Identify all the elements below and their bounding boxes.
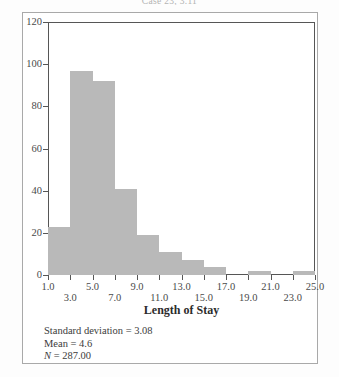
figure-top-caption: Case 23, 3.11 xyxy=(0,0,339,5)
y-axis-tick-label: 40 xyxy=(32,186,43,197)
x-axis-title: Length of Stay xyxy=(48,303,315,318)
y-axis-tick-label: 80 xyxy=(32,101,43,112)
histogram-bar xyxy=(48,227,70,275)
x-axis-tick-mark xyxy=(248,275,249,280)
x-axis-tick-label: 3.0 xyxy=(64,293,77,304)
histogram-bar xyxy=(204,267,226,275)
y-axis-tick-label: 120 xyxy=(26,17,42,28)
histogram-bars xyxy=(48,22,315,275)
x-axis-tick-mark xyxy=(271,275,272,280)
x-axis-tick-mark xyxy=(70,275,71,280)
x-axis-tick-mark xyxy=(115,275,116,280)
statistic-n-symbol: N xyxy=(44,350,51,361)
statistic-mean: Mean = 4.6 xyxy=(44,338,153,351)
x-axis-tick-label: 17.0 xyxy=(217,282,235,293)
y-axis-labels: 020406080100120 xyxy=(18,22,42,275)
statistics-block: Standard deviation = 3.08 Mean = 4.6 N =… xyxy=(44,325,153,363)
x-axis-tick-mark xyxy=(93,275,94,280)
x-axis-tick-mark xyxy=(204,275,205,280)
histogram-bar xyxy=(248,271,270,275)
x-axis-tick-label: 13.0 xyxy=(172,282,190,293)
statistic-n-value: = 287.00 xyxy=(51,350,91,361)
histogram-bar xyxy=(293,271,315,275)
y-axis-tick-label: 100 xyxy=(26,59,42,70)
x-axis-tick-label: 1.0 xyxy=(41,282,54,293)
x-axis-tick-mark xyxy=(226,275,227,280)
x-axis-tick-label: 23.0 xyxy=(284,293,302,304)
histogram-bar xyxy=(159,252,181,275)
y-axis-tick-label: 0 xyxy=(37,270,42,281)
x-axis-tick-label: 5.0 xyxy=(86,282,99,293)
histogram-bar xyxy=(137,235,159,275)
x-axis-tick-label: 9.0 xyxy=(130,282,143,293)
x-axis-tick-mark xyxy=(293,275,294,280)
x-axis-tick-mark xyxy=(315,275,316,280)
x-axis-tick-label: 15.0 xyxy=(195,293,213,304)
figure-container: Case 23, 3.11 020406080100120 1.03.05.07… xyxy=(0,0,339,377)
histogram-bar xyxy=(115,189,137,275)
histogram-bar xyxy=(93,81,115,275)
x-axis-tick-label: 19.0 xyxy=(239,293,257,304)
x-axis-tick-label: 7.0 xyxy=(108,293,121,304)
x-axis-tick-label: 11.0 xyxy=(150,293,168,304)
histogram-bar xyxy=(182,260,204,275)
x-axis-tick-mark xyxy=(159,275,160,280)
statistic-n: N = 287.00 xyxy=(44,350,153,363)
histogram-bar xyxy=(70,71,92,276)
x-axis-tick-label: 21.0 xyxy=(261,282,279,293)
x-axis-tick-mark xyxy=(48,275,49,280)
x-axis-tick-mark xyxy=(137,275,138,280)
statistic-standard-deviation: Standard deviation = 3.08 xyxy=(44,325,153,338)
x-axis-tick-mark xyxy=(182,275,183,280)
x-axis-tick-label: 25.0 xyxy=(306,282,324,293)
y-axis-tick-label: 20 xyxy=(32,228,43,239)
y-axis-tick-label: 60 xyxy=(32,144,43,155)
